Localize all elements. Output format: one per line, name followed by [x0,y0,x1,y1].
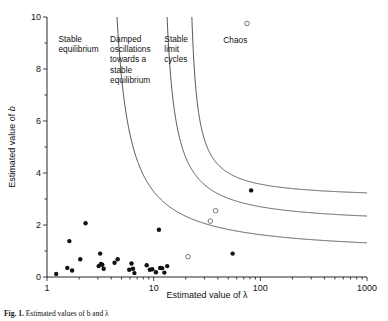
data-point-filled [98,251,102,255]
data-point-filled [78,257,82,261]
y-tick-label: 6 [36,116,41,126]
data-point-filled [70,268,74,272]
x-tick-label: 10 [149,283,159,293]
region-label-damped-oscillations: Dampedoscillationstowards astableequilib… [110,34,151,85]
y-tick-label: 8 [36,64,41,74]
data-point-filled [67,239,71,243]
region-boundary-curves [117,17,367,243]
region-label-stable-limit-cycles: Stablelimitcycles [164,34,188,65]
data-point-open [208,219,213,224]
data-point-filled [132,271,136,275]
data-point-filled [131,266,135,270]
data-point-open [186,254,191,259]
data-points-open [186,21,250,259]
region-label-chaos: Chaos [223,35,247,45]
data-point-filled [112,261,116,265]
caption-body: Estimated values of b and λ [26,309,109,318]
x-tick-label: 100 [253,283,268,293]
data-point-filled [100,263,104,267]
data-point-filled [115,257,119,261]
data-point-filled [54,272,58,276]
x-tick-label: 1 [44,283,49,293]
data-point-open [245,21,250,26]
data-point-filled [249,188,253,192]
data-point-filled [127,268,131,272]
y-tick-label: 10 [31,12,41,22]
y-tick-label: 0 [36,272,41,282]
x-axis-title: Estimated value of λ [166,290,248,300]
x-tick-label: 1000 [357,283,377,293]
boundary-curve-damped-oscillations-to-stable-limit-cycles [167,17,367,216]
caption-label: Fig. 1. [4,309,24,318]
data-point-filled [144,263,148,267]
boundary-curve-stable-limit-cycles-to-chaos [192,17,367,193]
data-point-filled [162,270,166,274]
data-point-filled [230,251,234,255]
y-axis-ticks [43,17,47,277]
region-label-stable-equilibrium: Stableequilibrium [58,34,98,54]
data-point-filled [160,266,164,270]
data-point-filled [150,267,154,271]
figure-caption: Fig. 1. Estimated values of b and λ [4,309,384,318]
x-axis-ticks [47,277,367,281]
data-point-filled [129,261,133,265]
y-axis-title: Estimated value of b [7,106,17,188]
y-axis-tick-labels: 0246810 [31,12,41,282]
data-point-filled [83,221,87,225]
boundary-curve-stable-equilibrium-to-damped-oscillations [117,17,367,243]
data-point-filled [65,266,69,270]
data-point-filled [101,266,105,270]
y-tick-label: 2 [36,220,41,230]
data-point-filled [154,270,158,274]
data-points-filled [54,188,253,276]
figure-panel: 0246810 1101001000 StableequilibriumDamp… [0,0,388,321]
region-labels: StableequilibriumDampedoscillationstowar… [58,34,247,85]
y-tick-label: 4 [36,168,41,178]
scatter-plot: 0246810 1101001000 StableequilibriumDamp… [0,0,388,321]
data-point-filled [157,227,161,231]
data-point-filled [165,264,169,268]
data-point-open [213,208,218,213]
